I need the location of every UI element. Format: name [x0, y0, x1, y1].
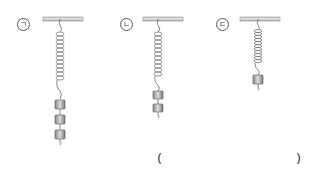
springs-diagram: [0, 0, 310, 182]
spring-nieun: [143, 17, 183, 118]
answer-close-paren: ): [296, 151, 301, 166]
spring-digeut: [240, 17, 280, 90]
spring-giyeok: [43, 17, 83, 145]
answer-open-paren: (: [157, 151, 162, 166]
